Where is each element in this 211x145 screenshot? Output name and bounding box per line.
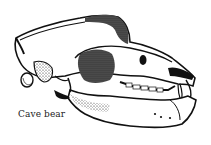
foramen-dot [160, 116, 162, 118]
foramen-dot [169, 117, 171, 119]
teeth [126, 83, 163, 92]
occipital-condyle [21, 73, 33, 87]
orbit [140, 55, 147, 65]
figure: Cave bear [0, 0, 211, 145]
foramen-dot [154, 113, 156, 115]
temporal-fossa-shadow [78, 50, 115, 84]
figure-caption: Cave bear [18, 109, 65, 119]
cave-bear-skull-illustration [0, 0, 211, 145]
